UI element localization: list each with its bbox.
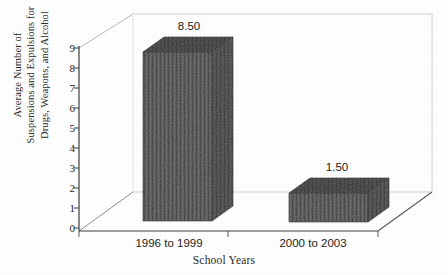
y-tick-label-7: 7 xyxy=(59,83,75,94)
y-axis-tick-labels: 9 8 7 6 5 4 3 2 1 0 xyxy=(54,0,75,275)
y-tick-label-1: 1 xyxy=(59,203,75,214)
x-category-label-1996-to-1999: 1996 to 1999 xyxy=(109,237,229,249)
y-axis-title: Average Number of Suspensions and Expuls… xyxy=(0,0,62,170)
y-tick-label-0: 0 xyxy=(59,223,75,234)
y-axis-title-line-3: Drugs, Weapons, and Alcohol xyxy=(38,11,52,139)
y-axis-title-line-2: Suspensions and Expulsions for xyxy=(24,7,38,144)
bar-2000-to-2003 xyxy=(289,178,389,222)
x-category-label-2000-to-2003: 2000 to 2003 xyxy=(253,237,373,249)
y-tick-label-4: 4 xyxy=(59,143,75,154)
bar-chart-figure: Average Number of Suspensions and Expuls… xyxy=(0,0,448,275)
y-tick-label-6: 6 xyxy=(59,103,75,114)
y-tick-label-5: 5 xyxy=(59,123,75,134)
y-tick-label-2: 2 xyxy=(59,183,75,194)
x-axis-title: School Years xyxy=(0,254,448,266)
data-label-2000-to-2003: 1.50 xyxy=(292,161,382,173)
y-tick-label-8: 8 xyxy=(59,63,75,74)
bar-1996-to-1999 xyxy=(143,37,233,221)
data-label-1996-to-1999: 8.50 xyxy=(144,20,234,32)
y-axis-title-line-1: Average Number of xyxy=(11,33,25,118)
y-tick-label-3: 3 xyxy=(59,163,75,174)
y-tick-label-9: 9 xyxy=(59,43,75,54)
